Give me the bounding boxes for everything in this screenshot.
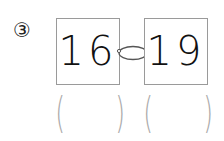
problem-number: ③ [11,19,33,41]
number-card-1: 16 [56,18,120,85]
open-paren: ( [143,92,153,136]
open-paren: ( [55,92,65,136]
close-paren: ) [203,92,213,136]
card-value: 19 [145,29,207,73]
card-value: 16 [57,29,119,73]
close-paren: ) [115,92,125,136]
number-card-2: 19 [144,18,208,85]
